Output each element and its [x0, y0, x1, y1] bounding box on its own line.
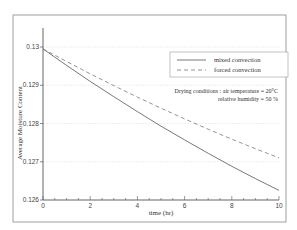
- y-tick-label: 0.129: [23, 81, 40, 88]
- y-tick-label: 0.13: [26, 43, 39, 50]
- x-tick-label: 0: [41, 202, 45, 209]
- legend-label-mixed: mixed convection: [214, 56, 261, 63]
- drying-conditions-note: Drying conditions : air temperature = 20…: [175, 88, 278, 94]
- humidity-note: relative humidity = 50 %: [218, 96, 278, 102]
- chart-frame: [13, 15, 286, 222]
- chart: 0.1260.1270.1280.1290.13 0246810 time (h…: [0, 0, 297, 230]
- x-tick-label: 10: [275, 202, 283, 209]
- y-tick-label: 0.127: [23, 158, 40, 165]
- x-tick-label: 4: [136, 202, 140, 209]
- x-tick-label: 8: [230, 202, 234, 209]
- y-tick-label: 0.128: [23, 120, 40, 127]
- legend: mixed convection forced convection: [170, 52, 288, 77]
- legend-label-forced: forced convection: [214, 66, 261, 73]
- y-axis-title: Average Moisture Content: [16, 86, 24, 160]
- x-axis-title: time (hr): [149, 209, 174, 217]
- y-axis-ticks: 0.1260.1270.1280.1290.13: [23, 43, 43, 203]
- x-tick-label: 6: [183, 202, 187, 209]
- x-tick-label: 2: [88, 202, 92, 209]
- x-axis-ticks: 0246810: [41, 196, 283, 209]
- y-tick-label: 0.126: [23, 196, 40, 203]
